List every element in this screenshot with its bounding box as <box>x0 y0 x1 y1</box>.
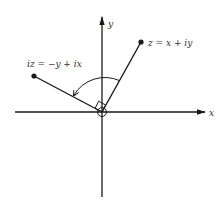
label-z: z = x + iy <box>147 38 193 48</box>
y-axis-label: y <box>107 19 114 29</box>
x-axis-label: x <box>209 108 214 118</box>
point-iz <box>31 73 36 78</box>
complex-plane-diagram: y x z = x + iy iz = −y + ix <box>0 0 223 208</box>
vector-iz <box>34 76 102 112</box>
point-z <box>138 39 143 44</box>
vector-z <box>102 42 141 112</box>
label-iz: iz = −y + ix <box>27 59 82 69</box>
